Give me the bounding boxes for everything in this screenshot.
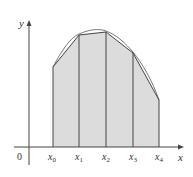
x-axis-arrow-icon [178,145,184,150]
y-axis-arrow-icon [27,20,32,26]
x-axis-label: x [177,151,183,163]
origin-label: 0 [17,151,22,162]
trapezoid-diagram: y x 0 x0 x1 x2 x3 x4 [0,0,193,177]
y-axis-label: y [18,17,24,29]
tick-x3: x3 [128,151,137,164]
tick-x4: x4 [154,151,163,164]
tick-x2: x2 [101,151,110,164]
tick-x1: x1 [74,151,83,164]
tick-x0: x0 [47,151,56,164]
tick-labels: x0 x1 x2 x3 x4 [47,151,163,164]
